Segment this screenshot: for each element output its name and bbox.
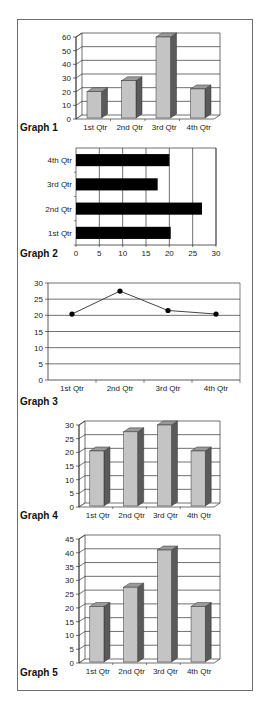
y-tick-label: 10 bbox=[65, 631, 74, 640]
y-tick-label: 15 bbox=[34, 328, 43, 337]
graph-caption: Graph 5 bbox=[20, 667, 58, 678]
series-line bbox=[72, 291, 216, 314]
y-tick-label: 10 bbox=[62, 101, 71, 110]
bar bbox=[157, 425, 171, 506]
graph-caption: Graph 1 bbox=[20, 122, 58, 133]
x-tick-label: 2nd Qtr bbox=[118, 511, 145, 520]
y-tick-label: 35 bbox=[65, 563, 74, 572]
bar bbox=[191, 89, 205, 118]
y-tick-label: 25 bbox=[65, 590, 74, 599]
data-point bbox=[117, 288, 122, 293]
x-tick-label: 4th Qtr bbox=[204, 384, 229, 393]
bar bbox=[124, 432, 138, 506]
x-tick-label: 3rd Qtr bbox=[153, 667, 178, 676]
y-tick-label: 25 bbox=[65, 435, 74, 444]
y-tick-label: 15 bbox=[65, 618, 74, 627]
bar-side bbox=[104, 603, 110, 662]
bar bbox=[87, 92, 101, 118]
x-tick-label: 2nd Qtr bbox=[116, 123, 143, 132]
bar-side bbox=[171, 546, 177, 662]
y-tick-label: 0 bbox=[67, 115, 72, 124]
y-tick-label: 30 bbox=[65, 421, 74, 430]
y-tick-label: 5 bbox=[70, 489, 75, 498]
bar-side bbox=[171, 421, 177, 506]
y-tick-label: 5 bbox=[39, 360, 44, 369]
bar bbox=[157, 550, 171, 662]
y-tick-label: 0 bbox=[70, 503, 75, 512]
x-tick-label: 1st Qtr bbox=[86, 667, 110, 676]
bar-side bbox=[205, 85, 211, 118]
bar-side bbox=[205, 603, 211, 662]
y-tick-label: 60 bbox=[62, 33, 71, 42]
graph-caption: Graph 3 bbox=[20, 396, 58, 407]
x-tick-label: 3rd Qtr bbox=[153, 511, 178, 520]
y-tick-label: 5 bbox=[70, 645, 75, 654]
data-point bbox=[213, 311, 218, 316]
x-tick-label: 20 bbox=[165, 249, 174, 258]
graph3-chart: 0510152025301st Qtr2nd Qtr3rd Qtr4th Qtr… bbox=[20, 279, 240, 407]
bar-side bbox=[104, 447, 110, 506]
graph4-chart: 0510152025301st Qtr2nd Qtr3rd Qtr4th Qtr… bbox=[20, 421, 220, 521]
y-tick-label: 0 bbox=[39, 376, 44, 385]
x-tick-label: 30 bbox=[212, 249, 221, 258]
x-tick-label: 4th Qtr bbox=[187, 667, 212, 676]
graph5-chart: 0510152025303540451st Qtr2nd Qtr3rd Qtr4… bbox=[20, 535, 220, 678]
y-tick-label: 30 bbox=[65, 576, 74, 585]
bar-side bbox=[138, 583, 144, 662]
bar bbox=[76, 203, 202, 215]
y-tick-label: 10 bbox=[65, 476, 74, 485]
y-tick-label: 20 bbox=[65, 448, 74, 457]
bar bbox=[76, 154, 169, 166]
x-tick-label: 1st Qtr bbox=[60, 384, 84, 393]
bar bbox=[191, 607, 205, 662]
graph1-chart: 01020304050601st Qtr2nd Qtr3rd Qtr4th Qt… bbox=[20, 33, 220, 133]
y-tick-label: 1st Qtr bbox=[48, 229, 72, 238]
graph-caption: Graph 4 bbox=[20, 510, 58, 521]
y-tick-label: 0 bbox=[70, 659, 75, 668]
x-tick-label: 3rd Qtr bbox=[152, 123, 177, 132]
y-tick-label: 4th Qtr bbox=[48, 156, 73, 165]
bar-side bbox=[101, 88, 107, 118]
y-tick-label: 45 bbox=[65, 535, 74, 544]
x-tick-label: 1st Qtr bbox=[86, 511, 110, 520]
graph2-chart: 0510152025301st Qtr2nd Qtr3rd Qtr4th Qtr… bbox=[20, 148, 221, 259]
bar bbox=[124, 587, 138, 662]
y-tick-label: 30 bbox=[62, 74, 71, 83]
x-tick-label: 3rd Qtr bbox=[156, 384, 181, 393]
bar-side bbox=[136, 77, 142, 118]
x-tick-label: 4th Qtr bbox=[187, 511, 212, 520]
x-tick-label: 10 bbox=[118, 249, 127, 258]
y-tick-label: 15 bbox=[65, 462, 74, 471]
y-tick-label: 30 bbox=[34, 279, 43, 288]
bar bbox=[156, 37, 170, 118]
y-tick-label: 10 bbox=[34, 344, 43, 353]
bar bbox=[76, 227, 171, 239]
bar bbox=[90, 607, 104, 662]
x-tick-label: 2nd Qtr bbox=[107, 384, 134, 393]
y-tick-label: 2nd Qtr bbox=[45, 205, 72, 214]
x-tick-label: 25 bbox=[188, 249, 197, 258]
y-tick-label: 20 bbox=[62, 88, 71, 97]
x-tick-label: 0 bbox=[74, 249, 79, 258]
y-tick-label: 50 bbox=[62, 47, 71, 56]
x-tick-label: 5 bbox=[97, 249, 102, 258]
graph-caption: Graph 2 bbox=[20, 248, 58, 259]
data-point bbox=[165, 308, 170, 313]
x-tick-label: 2nd Qtr bbox=[118, 667, 145, 676]
bar bbox=[122, 81, 136, 118]
y-tick-label: 25 bbox=[34, 295, 43, 304]
bar-side bbox=[138, 428, 144, 506]
bar bbox=[191, 451, 205, 506]
y-tick-label: 3rd Qtr bbox=[47, 180, 72, 189]
y-tick-label: 40 bbox=[65, 549, 74, 558]
x-tick-label: 1st Qtr bbox=[83, 123, 107, 132]
side-wall bbox=[79, 535, 85, 663]
graphs-canvas: 01020304050601st Qtr2nd Qtr3rd Qtr4th Qt… bbox=[0, 0, 265, 708]
x-tick-label: 4th Qtr bbox=[187, 123, 212, 132]
data-point bbox=[69, 311, 74, 316]
bar-side bbox=[170, 33, 176, 118]
x-tick-label: 15 bbox=[142, 249, 151, 258]
y-tick-label: 20 bbox=[65, 604, 74, 613]
bar-side bbox=[205, 447, 211, 506]
y-tick-label: 40 bbox=[62, 60, 71, 69]
